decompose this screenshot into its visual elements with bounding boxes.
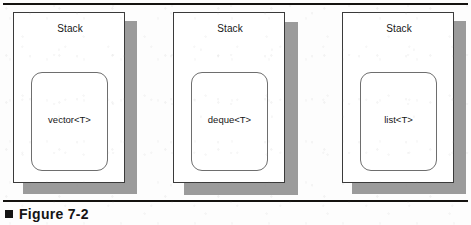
stack-card-vector: Stack vector<T> bbox=[13, 12, 138, 194]
figure-caption-text: Figure 7-2 bbox=[19, 206, 89, 222]
inner-container-box: deque<T> bbox=[191, 72, 268, 171]
inner-container-label: deque<T> bbox=[192, 114, 267, 125]
top-divider-rule bbox=[3, 3, 468, 5]
stack-card-body: Stack list<T> bbox=[342, 12, 454, 183]
stack-card-title: Stack bbox=[174, 23, 286, 35]
stack-card-body: Stack deque<T> bbox=[173, 12, 285, 183]
stack-card-title: Stack bbox=[14, 23, 126, 35]
stack-card-list: Stack list<T> bbox=[340, 12, 465, 194]
inner-container-box: list<T> bbox=[360, 72, 437, 171]
figure-page: Stack vector<T> Stack deque<T> Stack lis… bbox=[0, 0, 471, 225]
square-bullet-icon bbox=[5, 210, 13, 218]
stack-card-body: Stack vector<T> bbox=[13, 12, 125, 183]
inner-container-label: list<T> bbox=[361, 114, 436, 125]
bottom-divider-rule bbox=[3, 200, 468, 202]
inner-container-label: vector<T> bbox=[32, 114, 107, 125]
stack-card-deque: Stack deque<T> bbox=[173, 12, 298, 194]
figure-caption: Figure 7-2 bbox=[5, 206, 89, 222]
stack-card-title: Stack bbox=[343, 23, 455, 35]
inner-container-box: vector<T> bbox=[31, 72, 108, 171]
